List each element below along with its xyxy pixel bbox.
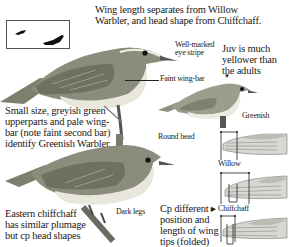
juvenile-warbler-illustration — [158, 78, 258, 128]
header-line-1: Wing length separates from Willow — [95, 4, 290, 15]
wing-diagram-greenish — [217, 128, 289, 160]
greenish-label: Greenish — [242, 112, 269, 120]
eye-stripe-label: Well-marked eye stripe — [175, 41, 214, 58]
dark-legs-label: Dark legs — [116, 208, 145, 216]
wing-bar-leader-line — [125, 80, 159, 81]
wing-diagram-chiffchaff — [217, 214, 289, 247]
juv-label: Juv is much yellower than the adults — [222, 43, 277, 76]
chiffchaff-caption: Eastern chiffchaff has similar plumage b… — [5, 208, 115, 241]
willow-label: Willow — [218, 160, 240, 168]
chiffchaff-label: Chiffchaff — [218, 205, 249, 213]
wing-diagram-willow — [217, 170, 289, 204]
